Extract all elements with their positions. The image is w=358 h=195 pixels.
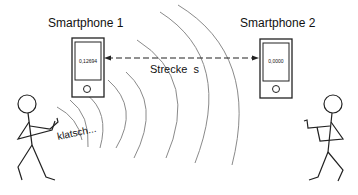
phone2-value: 0,0000 bbox=[268, 58, 284, 64]
diagram-canvas: Smartphone 1 0,12694 Smartphone 2 0,0000… bbox=[0, 0, 358, 195]
stick-figure-right bbox=[304, 95, 343, 181]
stick-figure-left bbox=[18, 95, 58, 180]
phone2-title: Smartphone 2 bbox=[240, 16, 316, 30]
smartphone-1 bbox=[72, 38, 104, 97]
phone1-title: Smartphone 1 bbox=[48, 16, 124, 30]
distance-label: Strecke s bbox=[150, 63, 199, 75]
smartphone-2 bbox=[260, 39, 292, 98]
phone1-value: 0,12694 bbox=[79, 58, 97, 64]
distance-arrow bbox=[104, 56, 259, 61]
